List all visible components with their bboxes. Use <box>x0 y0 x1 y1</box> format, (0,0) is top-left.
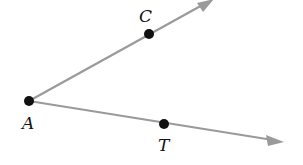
ray-ac <box>29 0 214 101</box>
arrowhead-icon <box>197 0 214 12</box>
point-a <box>24 96 34 106</box>
angle-diagram: A C T <box>0 0 303 165</box>
point-t <box>159 119 169 129</box>
label-t: T <box>158 135 171 155</box>
arrowhead-icon <box>266 135 284 146</box>
label-c: C <box>139 6 152 26</box>
label-a: A <box>20 113 34 133</box>
ray-at <box>29 101 284 146</box>
point-c <box>144 29 154 39</box>
